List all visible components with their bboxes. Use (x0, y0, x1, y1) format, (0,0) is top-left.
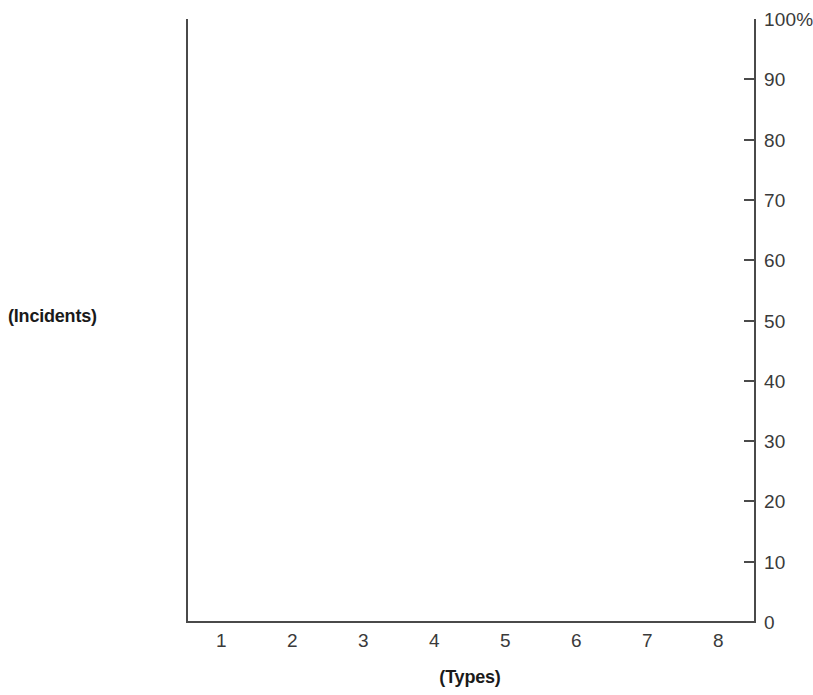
y-tick-mark (744, 320, 755, 322)
y-tick-label: 100% (764, 10, 813, 29)
x-tick-label: 8 (713, 631, 724, 650)
plot-area (188, 19, 754, 621)
x-tick-label: 4 (429, 631, 440, 650)
y-tick-label: 30 (764, 432, 786, 451)
y-tick-label: 90 (764, 70, 786, 89)
y-tick-label: 70 (764, 190, 786, 209)
y-tick-label: 40 (764, 371, 786, 390)
x-tick-label: 3 (358, 631, 369, 650)
x-tick-label: 6 (571, 631, 582, 650)
y-tick-mark (744, 259, 755, 261)
y-tick-mark (744, 561, 755, 563)
y-tick-label: 50 (764, 311, 786, 330)
y-tick-mark (744, 380, 755, 382)
y-tick-mark (744, 139, 755, 141)
x-tick-label: 5 (500, 631, 511, 650)
x-tick-label: 1 (216, 631, 227, 650)
x-axis-title: (Types) (439, 668, 500, 686)
x-tick-label: 7 (642, 631, 653, 650)
x-axis-bottom-spine (186, 621, 756, 623)
y-tick-mark (744, 199, 755, 201)
y-tick-label: 60 (764, 251, 786, 270)
y-axis-title: (Incidents) (8, 307, 97, 325)
y-tick-mark (744, 78, 755, 80)
y-tick-mark (744, 500, 755, 502)
y-tick-mark (744, 440, 755, 442)
y-tick-label: 10 (764, 552, 786, 571)
x-tick-label: 2 (287, 631, 298, 650)
y-tick-label: 20 (764, 492, 786, 511)
y-tick-label: 80 (764, 130, 786, 149)
y-tick-label: 0 (764, 613, 775, 632)
